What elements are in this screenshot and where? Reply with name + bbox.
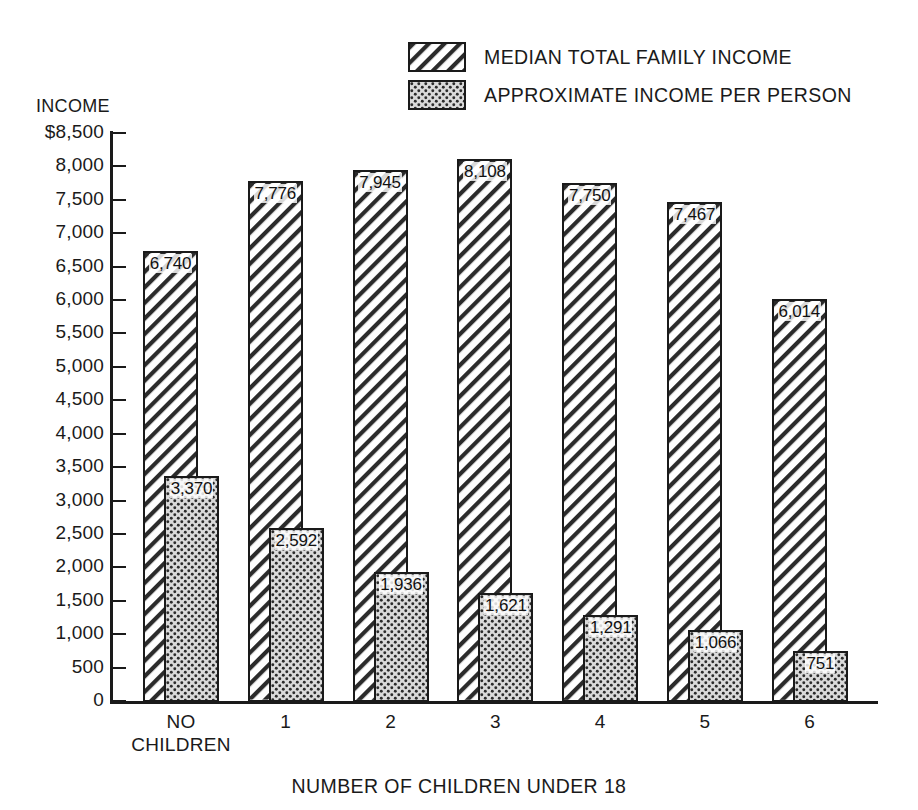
- y-axis-tick: [113, 566, 126, 568]
- bar-value-label: 3,370: [164, 479, 219, 499]
- y-axis-tick: [113, 132, 126, 134]
- y-axis-line: [110, 131, 113, 703]
- bar-value-label: 7,945: [353, 173, 408, 193]
- y-axis-tick: [113, 600, 126, 602]
- bar-value-label: 7,467: [667, 205, 722, 225]
- bar-median-total-family-income: [772, 299, 827, 702]
- y-axis-tick-label-text: 500: [16, 656, 104, 678]
- y-axis-tick-label-text: 2,000: [16, 555, 104, 577]
- income-by-children-bar-chart: MEDIAN TOTAL FAMILY INCOME APPROXIMATE I…: [0, 0, 918, 810]
- y-axis-tick-label-text: 3,000: [16, 489, 104, 511]
- dot-swatch-icon: [408, 80, 466, 110]
- x-axis-category-label: 6: [740, 710, 880, 733]
- bar-value-label: 751: [793, 654, 848, 674]
- y-axis-tick: [113, 165, 126, 167]
- bar-approximate-income-per-person: [269, 528, 324, 702]
- legend-label-per-person: APPROXIMATE INCOME PER PERSON: [484, 84, 852, 107]
- y-axis-tick-label-text: 0: [16, 689, 104, 711]
- y-axis-tick-label-text: $8,500: [16, 121, 104, 143]
- y-axis-tick-label-text: 8,000: [16, 154, 104, 176]
- y-axis-tick-label-text: 3,500: [16, 455, 104, 477]
- y-axis-tick: [113, 199, 126, 201]
- bar-value-label: 1,066: [688, 633, 743, 653]
- bar-value-label: 7,750: [562, 186, 617, 206]
- bar-value-label: 1,621: [478, 596, 533, 616]
- hatch-swatch-icon: [408, 42, 466, 72]
- bar-value-label: 8,108: [457, 162, 512, 182]
- bar-value-label: 6,740: [143, 254, 198, 274]
- legend-label-median: MEDIAN TOTAL FAMILY INCOME: [484, 46, 792, 69]
- y-axis-tick: [113, 500, 126, 502]
- y-axis-tick: [113, 399, 126, 401]
- y-axis-tick: [113, 299, 126, 301]
- chart-legend: MEDIAN TOTAL FAMILY INCOME APPROXIMATE I…: [408, 38, 908, 114]
- y-axis-tick-label-text: 7,000: [16, 221, 104, 243]
- y-axis-tick: [113, 633, 126, 635]
- bar-value-label: 2,592: [269, 531, 324, 551]
- y-axis-tick-label-text: 6,000: [16, 288, 104, 310]
- y-axis-tick-label-text: 4,500: [16, 388, 104, 410]
- y-axis-tick-label-text: 4,000: [16, 422, 104, 444]
- y-axis-tick-label-text: 5,000: [16, 355, 104, 377]
- y-axis-tick: [113, 667, 126, 669]
- y-axis-tick-label-text: 1,500: [16, 589, 104, 611]
- bar-value-label: 1,291: [583, 618, 638, 638]
- bar-value-label: 1,936: [374, 575, 429, 595]
- y-axis-caption: INCOME: [36, 96, 110, 117]
- bar-median-total-family-income: [667, 202, 722, 702]
- legend-item-median: MEDIAN TOTAL FAMILY INCOME: [408, 38, 908, 76]
- y-axis-tick: [113, 700, 126, 702]
- y-axis-tick: [113, 533, 126, 535]
- y-axis-tick-label-text: 7,500: [16, 188, 104, 210]
- bar-approximate-income-per-person: [164, 476, 219, 702]
- y-axis-tick: [113, 366, 126, 368]
- bar-value-label: 6,014: [772, 302, 827, 322]
- y-axis-tick: [113, 232, 126, 234]
- legend-item-per-person: APPROXIMATE INCOME PER PERSON: [408, 76, 908, 114]
- y-axis-tick-label-text: 5,500: [16, 321, 104, 343]
- x-axis-title: NUMBER OF CHILDREN UNDER 18: [0, 775, 918, 798]
- y-axis-tick: [113, 433, 126, 435]
- y-axis-tick-label-text: 6,500: [16, 255, 104, 277]
- y-axis-tick: [113, 332, 126, 334]
- bar-value-label: 7,776: [248, 184, 303, 204]
- y-axis-tick: [113, 466, 126, 468]
- y-axis-tick: [113, 266, 126, 268]
- y-axis-tick-label-text: 2,500: [16, 522, 104, 544]
- y-axis-tick-label-text: 1,000: [16, 622, 104, 644]
